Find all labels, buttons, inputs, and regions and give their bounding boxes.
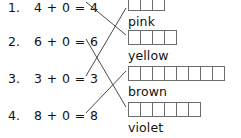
equation-row: 1. 4 + 0 = 4	[0, 0, 120, 15]
equation-expression: 6 + 0 = 6	[34, 34, 98, 49]
box-strip-pink	[128, 0, 165, 11]
equation-expression: 8 + 0 = 8	[34, 108, 98, 123]
equation-number: 4.	[8, 108, 20, 123]
equation-row: 2. 6 + 0 = 6	[0, 33, 120, 49]
equation-row: 3. 3 + 0 = 3	[0, 70, 120, 86]
color-label-brown: brown	[128, 84, 167, 99]
box-cell	[164, 30, 177, 45]
box-strip-brown	[128, 66, 225, 81]
box-strip-yellow	[128, 30, 177, 45]
equation-number: 1.	[8, 0, 20, 15]
box-cell	[152, 0, 165, 11]
equation-expression: 4 + 0 = 4	[34, 0, 98, 15]
box-cell	[188, 102, 201, 117]
equation-expression: 3 + 0 = 3	[34, 71, 98, 86]
equation-number: 2.	[8, 34, 20, 49]
color-label-pink: pink	[128, 14, 155, 29]
equation-number: 3.	[8, 71, 20, 86]
color-label-yellow: yellow	[128, 48, 169, 63]
box-strip-violet	[128, 102, 201, 117]
worksheet-page: 1. 4 + 0 = 4 2. 6 + 0 = 6 3. 3 + 0 = 3 4…	[0, 0, 241, 138]
color-label-violet: violet	[128, 120, 163, 135]
equation-row: 4. 8 + 0 = 8	[0, 107, 120, 123]
box-cell	[212, 66, 225, 81]
